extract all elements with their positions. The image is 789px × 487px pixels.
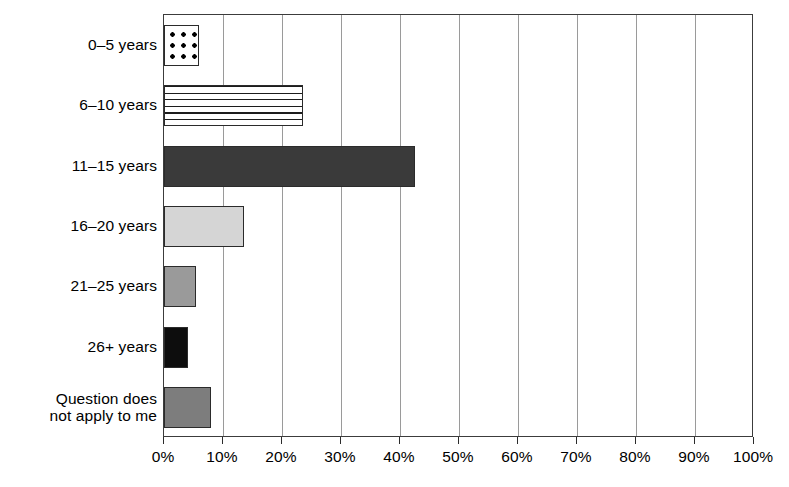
gridline-40pct <box>400 15 401 436</box>
gridline-80pct <box>636 15 637 436</box>
x-tick-60pct <box>517 437 518 444</box>
category-label-3: 16–20 years <box>0 217 157 234</box>
x-tick-30pct <box>340 437 341 444</box>
category-label-2: 11–15 years <box>0 157 157 174</box>
x-tick-label-90pct: 90% <box>678 448 709 466</box>
category-label-line: 21–25 years <box>0 277 157 294</box>
x-tick-50pct <box>458 437 459 444</box>
bar-5 <box>164 327 188 368</box>
x-tick-label-80pct: 80% <box>619 448 650 466</box>
x-axis-tick-labels: 0%10%20%30%40%50%60%70%80%90%100% <box>0 448 789 474</box>
gridline-20pct <box>282 15 283 436</box>
x-tick-100pct <box>753 437 754 444</box>
bar-4 <box>164 266 196 307</box>
category-label-5: 26+ years <box>0 338 157 355</box>
x-tick-label-40pct: 40% <box>383 448 414 466</box>
x-tick-20pct <box>281 437 282 444</box>
x-tick-label-30pct: 30% <box>324 448 355 466</box>
category-axis-labels: 0–5 years6–10 years11–15 years16–20 year… <box>0 14 157 437</box>
gridline-90pct <box>695 15 696 436</box>
x-tick-90pct <box>694 437 695 444</box>
gridline-50pct <box>459 15 460 436</box>
category-label-line: 11–15 years <box>0 157 157 174</box>
bar-0 <box>164 25 199 66</box>
category-label-4: 21–25 years <box>0 277 157 294</box>
category-label-6: Question doesnot apply to me <box>0 390 157 424</box>
bar-2 <box>164 146 415 187</box>
x-tick-label-0pct: 0% <box>152 448 175 466</box>
x-tick-label-70pct: 70% <box>560 448 591 466</box>
category-label-line: Question does <box>0 390 157 407</box>
x-tick-label-60pct: 60% <box>501 448 532 466</box>
gridline-70pct <box>577 15 578 436</box>
category-label-1: 6–10 years <box>0 96 157 113</box>
x-tick-10pct <box>222 437 223 444</box>
category-label-line: 0–5 years <box>0 36 157 53</box>
category-label-line: 6–10 years <box>0 96 157 113</box>
x-tick-label-20pct: 20% <box>265 448 296 466</box>
x-tick-0pct <box>163 437 164 444</box>
category-label-line: not apply to me <box>0 407 157 424</box>
bar-3 <box>164 206 244 247</box>
x-tick-80pct <box>635 437 636 444</box>
category-label-line: 26+ years <box>0 338 157 355</box>
x-tick-label-10pct: 10% <box>206 448 237 466</box>
bar-6 <box>164 387 211 428</box>
gridline-60pct <box>518 15 519 436</box>
x-tick-40pct <box>399 437 400 444</box>
x-tick-label-100pct: 100% <box>733 448 773 466</box>
plot-area <box>163 14 753 437</box>
x-tick-label-50pct: 50% <box>442 448 473 466</box>
category-label-0: 0–5 years <box>0 36 157 53</box>
x-tick-70pct <box>576 437 577 444</box>
category-label-line: 16–20 years <box>0 217 157 234</box>
horizontal-bar-chart: 0–5 years6–10 years11–15 years16–20 year… <box>0 0 789 487</box>
bar-1 <box>164 85 303 126</box>
gridline-30pct <box>341 15 342 436</box>
